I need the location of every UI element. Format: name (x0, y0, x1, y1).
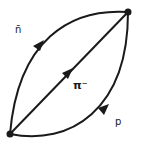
vertex-bottom-left (7, 131, 14, 138)
nbar-label: n̄ (15, 25, 21, 35)
feynman-diagram (0, 0, 143, 149)
pion-label: π⁻ (73, 80, 88, 91)
proton-label: p (115, 117, 121, 127)
vertex-top-right (125, 9, 132, 16)
